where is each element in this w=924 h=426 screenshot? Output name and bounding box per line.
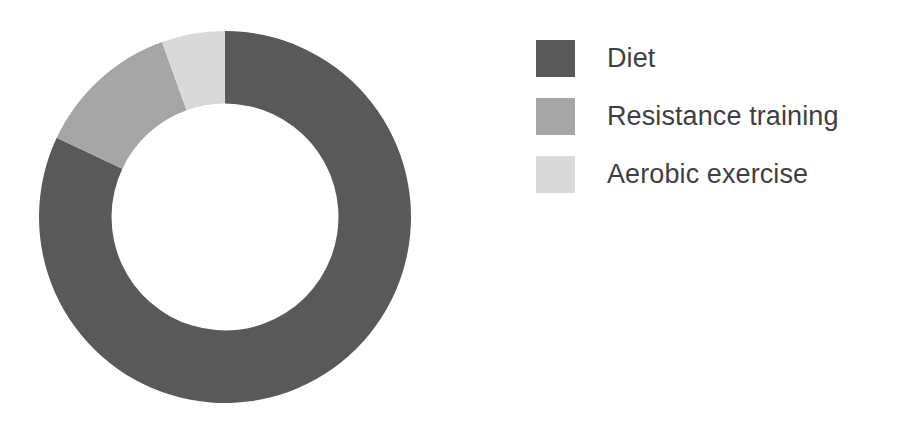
legend-item-resistance-training[interactable]: Resistance training <box>536 87 906 145</box>
legend-swatch-aerobic-exercise <box>536 156 575 193</box>
legend-swatch-diet <box>536 40 575 77</box>
donut-chart-figure: Diet Resistance training Aerobic exercis… <box>0 0 924 426</box>
legend-label-diet: Diet <box>607 43 655 73</box>
legend-item-aerobic-exercise[interactable]: Aerobic exercise <box>536 145 906 203</box>
legend-label-resistance-training: Resistance training <box>607 101 839 131</box>
donut-chart-plot-area <box>39 31 411 403</box>
legend-swatch-resistance-training <box>536 98 575 135</box>
legend-label-aerobic-exercise: Aerobic exercise <box>607 159 808 189</box>
legend-item-diet[interactable]: Diet <box>536 29 906 87</box>
donut-chart-svg <box>39 31 411 403</box>
chart-legend: Diet Resistance training Aerobic exercis… <box>536 29 906 203</box>
donut-slice-group <box>39 31 411 403</box>
